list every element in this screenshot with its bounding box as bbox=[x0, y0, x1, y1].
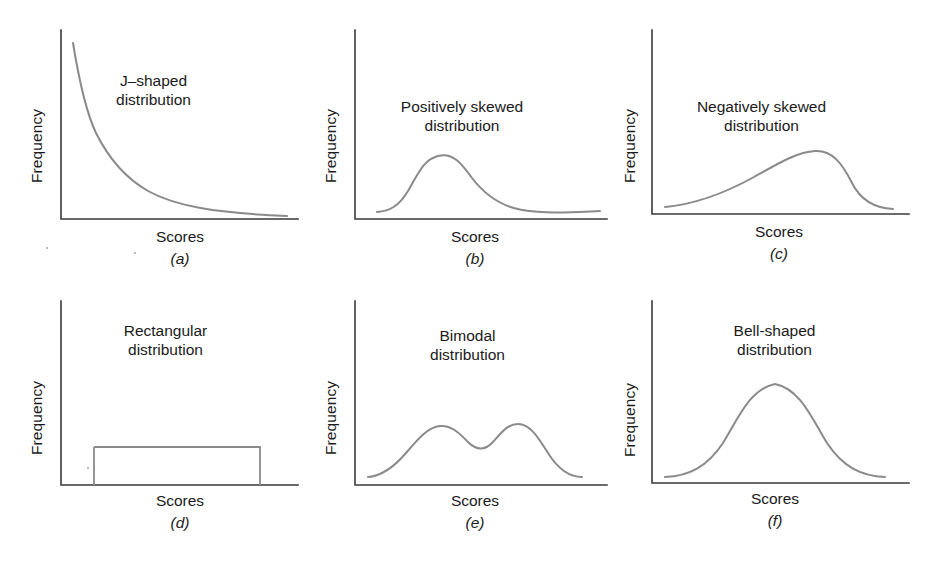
scan-speck bbox=[46, 247, 48, 249]
panel-c-letter: (c) bbox=[719, 245, 839, 263]
panel-f-x-axis-label: Scores bbox=[715, 490, 835, 508]
panel-b-letter: (b) bbox=[415, 250, 535, 268]
panel-d-title-line1: Rectangular bbox=[124, 322, 208, 339]
panel-c-y-axis-label: Frequency bbox=[621, 109, 639, 183]
scan-speck bbox=[87, 467, 89, 469]
distribution-shapes-figure: Frequency J–shaped distribution Scores (… bbox=[0, 0, 929, 574]
panel-a-title-line1: J–shaped bbox=[120, 72, 187, 89]
panel-b-title-line1: Positively skewed bbox=[401, 98, 523, 115]
panel-d-letter: (d) bbox=[120, 514, 240, 532]
panel-a-curve bbox=[73, 43, 287, 216]
panel-a: Frequency J–shaped distribution Scores (… bbox=[0, 0, 310, 287]
panel-a-y-axis-label: Frequency bbox=[28, 109, 46, 183]
panel-b-curve bbox=[377, 155, 600, 212]
panel-c-title-line2: distribution bbox=[724, 117, 799, 134]
panel-e-title-line2: distribution bbox=[430, 346, 505, 363]
panel-c-title: Negatively skewed distribution bbox=[659, 98, 864, 135]
panel-b-title: Positively skewed distribution bbox=[362, 98, 562, 135]
panel-d: Frequency Rectangular distribution Score… bbox=[0, 287, 310, 574]
panel-b-title-line2: distribution bbox=[425, 117, 500, 134]
panel-b: Frequency Positively skewed distribution… bbox=[310, 0, 620, 287]
panel-e-y-axis-label: Frequency bbox=[322, 381, 340, 455]
panel-a-title: J–shaped distribution bbox=[66, 72, 241, 109]
panel-f-y-axis-label: Frequency bbox=[621, 383, 639, 457]
panel-c-plot bbox=[619, 0, 929, 287]
panel-a-x-axis-label: Scores bbox=[120, 228, 240, 246]
panel-a-title-line2: distribution bbox=[116, 91, 191, 108]
scan-speck bbox=[134, 252, 136, 254]
panel-e-title: Bimodal distribution bbox=[380, 327, 555, 364]
panel-c-curve bbox=[665, 151, 893, 209]
panel-a-axes bbox=[61, 30, 298, 219]
panel-f-title-line1: Bell-shaped bbox=[734, 322, 816, 339]
panel-b-y-axis-label: Frequency bbox=[322, 109, 340, 183]
panel-c-title-line1: Negatively skewed bbox=[697, 98, 826, 115]
panel-e-title-line1: Bimodal bbox=[440, 327, 496, 344]
panel-f-title: Bell-shaped distribution bbox=[687, 322, 862, 359]
panel-a-letter: (a) bbox=[120, 250, 240, 268]
panel-f: Frequency Bell-shaped distribution Score… bbox=[619, 287, 929, 574]
panel-d-title-line2: distribution bbox=[128, 341, 203, 358]
panel-d-y-axis-label: Frequency bbox=[28, 381, 46, 455]
panel-e-x-axis-label: Scores bbox=[415, 492, 535, 510]
panel-d-title: Rectangular distribution bbox=[78, 322, 253, 359]
panel-c-x-axis-label: Scores bbox=[719, 223, 839, 241]
panel-f-letter: (f) bbox=[715, 512, 835, 530]
panel-d-x-axis-label: Scores bbox=[120, 492, 240, 510]
panel-f-curve bbox=[665, 384, 885, 477]
panel-c: Frequency Negatively skewed distribution… bbox=[619, 0, 929, 287]
panel-f-title-line2: distribution bbox=[737, 341, 812, 358]
panel-e: Frequency Bimodal distribution Scores (e… bbox=[310, 287, 620, 574]
panel-b-x-axis-label: Scores bbox=[415, 228, 535, 246]
panel-e-letter: (e) bbox=[415, 514, 535, 532]
panel-e-curve bbox=[368, 424, 582, 477]
panel-d-rectangle bbox=[94, 447, 260, 485]
